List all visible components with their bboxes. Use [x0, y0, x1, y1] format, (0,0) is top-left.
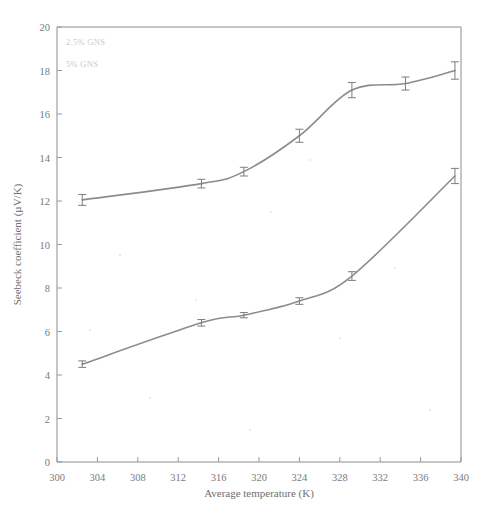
legend: 2.5% GNS 5% GNS [66, 37, 105, 69]
y-tick-label: 16 [40, 109, 51, 120]
series-layer [78, 62, 459, 368]
x-tick-label: 340 [453, 472, 469, 483]
y-tick-label: 18 [40, 66, 51, 77]
y-tick-label: 20 [40, 22, 51, 33]
error-bar [295, 129, 303, 142]
y-tick-label: 14 [40, 153, 51, 164]
y-tick-label: 4 [45, 370, 51, 381]
y-axis-title: Seebeck coefficient (µV/K) [11, 183, 24, 305]
legend-entry-2-5-gns: 2.5% GNS [66, 37, 105, 47]
x-tick-label: 312 [170, 472, 186, 483]
series-1 [78, 62, 459, 206]
error-bar [78, 361, 86, 368]
legend-entry-5-gns: 5% GNS [66, 59, 98, 69]
x-tick-label: 336 [413, 472, 429, 483]
chart-figure: 0 2 4 6 8 10 12 14 16 18 20 [0, 0, 504, 523]
error-bar [451, 168, 459, 183]
y-tick-label: 12 [40, 196, 51, 207]
x-tick-label: 300 [49, 472, 65, 483]
x-tick-label: 324 [292, 472, 309, 483]
y-tick-label: 6 [45, 327, 50, 338]
y-axis-ticks [57, 27, 62, 462]
x-tick-label: 320 [251, 472, 267, 483]
error-bar [295, 298, 303, 305]
x-axis-title: Average temperature (K) [204, 487, 314, 500]
seebeck-coefficient-line-chart: 0 2 4 6 8 10 12 14 16 18 20 [0, 0, 504, 523]
x-axis-ticks [57, 457, 461, 462]
series-line [82, 71, 455, 200]
x-tick-label: 332 [372, 472, 388, 483]
x-tick-label: 304 [90, 472, 107, 483]
y-tick-label: 0 [45, 457, 50, 468]
scan-artifacts [89, 159, 431, 431]
x-tick-label: 308 [130, 472, 146, 483]
y-tick-label: 10 [40, 240, 51, 251]
x-axis-tick-labels: 300 304 308 312 316 320 324 328 332 336 … [49, 472, 469, 483]
series-2 [78, 168, 459, 367]
plot-frame [57, 27, 461, 462]
error-bar [348, 82, 356, 97]
y-tick-label: 2 [45, 414, 50, 425]
y-tick-label: 8 [45, 283, 50, 294]
series-line [82, 176, 455, 364]
x-tick-label: 316 [211, 472, 227, 483]
error-bar [240, 167, 248, 176]
y-axis-tick-labels: 0 2 4 6 8 10 12 14 16 18 20 [40, 22, 51, 468]
x-tick-label: 328 [332, 472, 348, 483]
